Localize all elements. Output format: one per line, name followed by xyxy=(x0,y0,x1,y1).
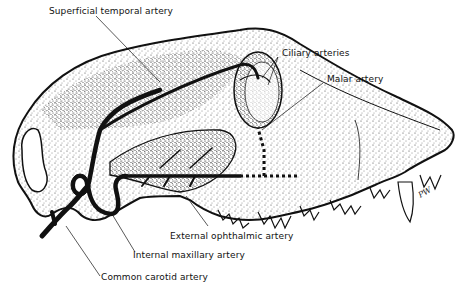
label-malar-artery: Malar artery xyxy=(327,74,383,84)
label-internal-maxillary-artery: Internal maxillary artery xyxy=(133,250,245,260)
label-ciliary-arteries: Ciliary arteries xyxy=(282,48,350,58)
skull-outline xyxy=(13,29,453,221)
label-external-ophthalmic-artery: External ophthalmic artery xyxy=(170,231,293,241)
canine-tooth xyxy=(398,182,413,222)
label-superficial-temporal-artery: Superficial temporal artery xyxy=(49,6,173,16)
label-common-carotid-artery: Common carotid artery xyxy=(101,272,208,282)
orbit-inner xyxy=(245,62,279,122)
